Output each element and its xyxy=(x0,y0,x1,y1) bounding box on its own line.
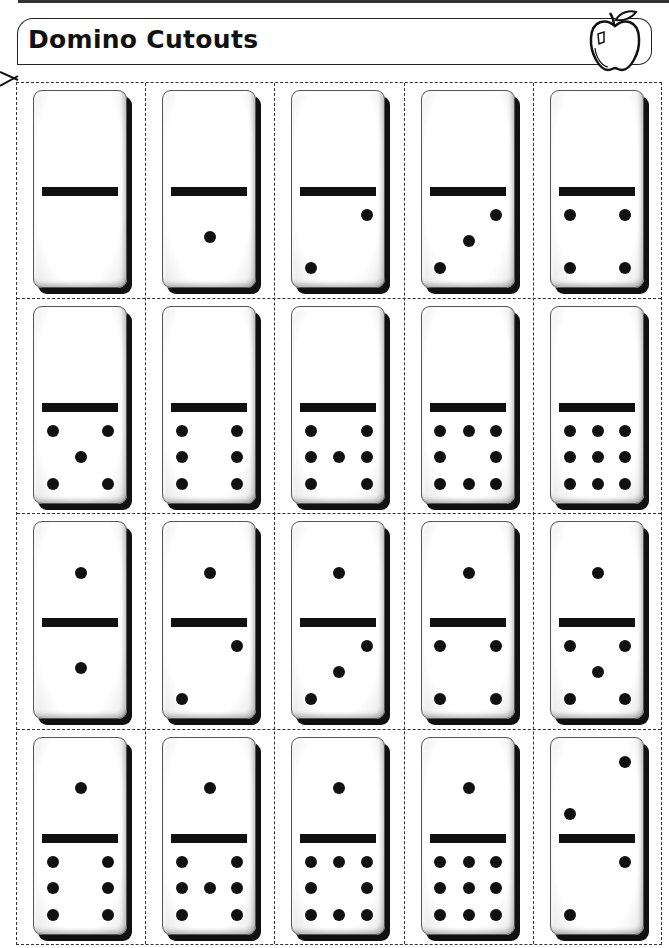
pip xyxy=(176,909,188,921)
apple-icon xyxy=(586,8,644,74)
pip xyxy=(592,567,604,579)
pip xyxy=(490,856,502,868)
pip xyxy=(333,782,345,794)
pip xyxy=(619,640,631,652)
pip xyxy=(490,909,502,921)
pip xyxy=(564,209,576,221)
domino-divider xyxy=(42,834,118,843)
pip xyxy=(361,640,373,652)
domino-cell xyxy=(275,514,404,729)
domino-cutout-grid xyxy=(16,82,662,945)
domino-cell xyxy=(534,299,663,514)
pip xyxy=(592,425,604,437)
top-rule xyxy=(18,0,669,3)
domino-divider xyxy=(430,618,506,627)
pip xyxy=(434,693,446,705)
domino-1-6 xyxy=(33,737,127,935)
domino-divider xyxy=(300,834,376,843)
pip xyxy=(102,882,114,894)
domino-divider xyxy=(171,834,247,843)
pip xyxy=(176,856,188,868)
domino-cell xyxy=(534,730,663,945)
pip xyxy=(463,909,475,921)
domino-1-1 xyxy=(33,521,127,719)
pip xyxy=(333,451,345,463)
domino-0-5 xyxy=(33,306,127,504)
pip xyxy=(75,782,87,794)
pip xyxy=(619,693,631,705)
domino-cell xyxy=(275,299,404,514)
domino-0-0 xyxy=(33,90,127,288)
domino-divider xyxy=(171,187,247,196)
domino-0-2 xyxy=(291,90,385,288)
pip xyxy=(361,882,373,894)
pip xyxy=(231,909,243,921)
pip xyxy=(231,425,243,437)
domino-cell xyxy=(17,730,146,945)
pip xyxy=(102,478,114,490)
pip xyxy=(434,451,446,463)
domino-divider xyxy=(300,187,376,196)
pip xyxy=(463,782,475,794)
domino-0-8 xyxy=(421,306,515,504)
pip xyxy=(75,567,87,579)
pip xyxy=(305,451,317,463)
pip xyxy=(463,856,475,868)
domino-cell xyxy=(275,730,404,945)
pip xyxy=(490,640,502,652)
pip xyxy=(231,478,243,490)
domino-cell xyxy=(275,83,404,298)
domino-divider xyxy=(42,618,118,627)
pip xyxy=(463,567,475,579)
domino-divider xyxy=(300,403,376,412)
pip xyxy=(305,856,317,868)
pip xyxy=(490,882,502,894)
pip xyxy=(305,425,317,437)
pip xyxy=(333,909,345,921)
pip xyxy=(305,262,317,274)
pip xyxy=(176,882,188,894)
domino-1-3 xyxy=(291,521,385,719)
domino-cell xyxy=(534,514,663,729)
domino-1-2 xyxy=(162,521,256,719)
pip xyxy=(619,451,631,463)
pip xyxy=(463,425,475,437)
pip xyxy=(490,451,502,463)
pip xyxy=(47,856,59,868)
pip xyxy=(619,756,631,768)
domino-divider xyxy=(171,618,247,627)
pip xyxy=(361,425,373,437)
pip xyxy=(619,478,631,490)
domino-divider xyxy=(559,187,635,196)
pip xyxy=(619,425,631,437)
pip xyxy=(619,262,631,274)
pip xyxy=(463,478,475,490)
pip xyxy=(47,909,59,921)
pip xyxy=(305,478,317,490)
domino-cell xyxy=(405,83,534,298)
domino-divider xyxy=(430,187,506,196)
pip xyxy=(204,567,216,579)
domino-cell xyxy=(146,730,275,945)
pip xyxy=(463,882,475,894)
pip xyxy=(231,882,243,894)
pip xyxy=(564,909,576,921)
domino-1-8 xyxy=(291,737,385,935)
pip xyxy=(361,856,373,868)
pip xyxy=(75,451,87,463)
domino-1-7 xyxy=(162,737,256,935)
pip xyxy=(490,693,502,705)
pip xyxy=(463,235,475,247)
pip xyxy=(361,909,373,921)
page-title: Domino Cutouts xyxy=(28,25,258,54)
pip xyxy=(176,693,188,705)
domino-cell xyxy=(146,299,275,514)
pip xyxy=(564,478,576,490)
pip xyxy=(176,478,188,490)
domino-divider xyxy=(300,618,376,627)
pip xyxy=(305,693,317,705)
pip xyxy=(333,856,345,868)
domino-1-9 xyxy=(421,737,515,935)
domino-divider xyxy=(42,187,118,196)
pip xyxy=(305,882,317,894)
